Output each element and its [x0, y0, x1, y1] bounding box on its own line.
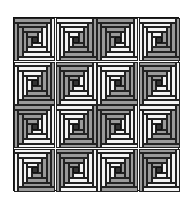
log-bottom — [152, 91, 171, 96]
quilt-block — [97, 149, 139, 193]
log-right — [176, 62, 180, 101]
log-bottom — [106, 96, 134, 101]
block-center-square — [73, 167, 79, 173]
log-right — [84, 114, 88, 134]
quilt-block — [139, 18, 181, 62]
log-bottom — [69, 178, 88, 183]
log-right — [121, 163, 125, 174]
quilt-block — [139, 149, 181, 193]
log-bottom — [23, 183, 51, 188]
log-bottom — [156, 130, 166, 135]
log-bottom — [147, 96, 175, 101]
log-right — [162, 32, 166, 43]
log-bottom — [60, 187, 97, 192]
block-center-square — [156, 167, 162, 173]
log-right — [47, 153, 51, 182]
block-center-square — [115, 80, 121, 86]
log-bottom — [73, 86, 83, 91]
log-bottom — [156, 43, 166, 48]
log-bottom — [147, 183, 175, 188]
log-right — [79, 163, 83, 174]
log-bottom — [69, 134, 88, 139]
log-right — [84, 27, 88, 47]
log-right — [121, 76, 125, 87]
log-right — [167, 71, 171, 91]
log-right — [125, 71, 129, 91]
log-bottom — [147, 139, 175, 144]
log-bottom — [27, 178, 46, 183]
log-bottom — [110, 91, 129, 96]
log-right — [171, 110, 175, 139]
log-right — [38, 32, 42, 43]
log-bottom — [143, 187, 180, 192]
log-right — [47, 110, 51, 139]
log-bottom — [115, 43, 125, 48]
log-right — [130, 110, 134, 139]
block-center-square — [115, 37, 121, 43]
block-center-square — [32, 37, 38, 43]
block-center-square — [32, 167, 38, 173]
quilt-block — [139, 105, 181, 149]
block-center-square — [73, 124, 79, 130]
log-right — [171, 66, 175, 95]
log-bottom — [32, 86, 42, 91]
log-right — [130, 23, 134, 52]
log-bottom — [32, 130, 42, 135]
log-right — [162, 119, 166, 130]
log-right — [125, 114, 129, 134]
block-center-square — [115, 124, 121, 130]
log-bottom — [23, 139, 51, 144]
log-bottom — [106, 52, 134, 57]
log-right — [38, 163, 42, 174]
log-right — [42, 114, 46, 134]
quilt-block — [56, 149, 98, 193]
log-cabin-quilt — [13, 17, 179, 191]
log-bottom — [106, 183, 134, 188]
log-bottom — [27, 47, 46, 52]
quilt-block — [56, 62, 98, 106]
log-right — [88, 110, 92, 139]
log-right — [84, 158, 88, 178]
log-bottom — [27, 91, 46, 96]
log-bottom — [156, 86, 166, 91]
log-right — [176, 149, 180, 188]
log-bottom — [18, 187, 55, 192]
quilt-block — [14, 18, 56, 62]
log-bottom — [106, 139, 134, 144]
log-right — [42, 71, 46, 91]
log-right — [125, 27, 129, 47]
log-right — [38, 76, 42, 87]
log-bottom — [115, 130, 125, 135]
log-right — [84, 71, 88, 91]
quilt-block — [97, 105, 139, 149]
log-bottom — [110, 134, 129, 139]
quilt-block — [97, 62, 139, 106]
log-bottom — [110, 178, 129, 183]
block-center-square — [156, 124, 162, 130]
log-right — [121, 119, 125, 130]
log-bottom — [115, 173, 125, 178]
log-bottom — [152, 47, 171, 52]
log-right — [167, 158, 171, 178]
log-bottom — [64, 139, 92, 144]
log-right — [125, 158, 129, 178]
log-right — [167, 27, 171, 47]
log-bottom — [32, 43, 42, 48]
quilt-block — [56, 18, 98, 62]
log-right — [167, 114, 171, 134]
log-right — [47, 66, 51, 95]
block-center-square — [73, 37, 79, 43]
log-bottom — [73, 130, 83, 135]
log-bottom — [69, 91, 88, 96]
log-right — [176, 18, 180, 57]
log-bottom — [156, 173, 166, 178]
log-right — [130, 153, 134, 182]
log-right — [47, 23, 51, 52]
log-bottom — [64, 52, 92, 57]
log-bottom — [152, 178, 171, 183]
log-bottom — [73, 43, 83, 48]
log-bottom — [147, 52, 175, 57]
log-right — [42, 158, 46, 178]
block-center-square — [32, 80, 38, 86]
block-center-square — [115, 167, 121, 173]
